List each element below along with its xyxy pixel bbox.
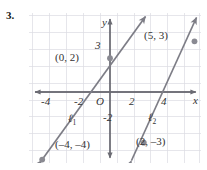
point-marker-0-2	[107, 55, 113, 61]
x-tick-label-neg4: -4	[41, 96, 50, 107]
x-tick-label-2: 2	[129, 96, 135, 107]
line-label-ell-2: ℓ2	[148, 112, 156, 126]
line-label-ell-1-subscript: 1	[73, 118, 77, 127]
line-label-ell-1: ℓ1	[68, 113, 76, 127]
y-axis-label: y	[102, 17, 107, 28]
x-axis-label: x	[193, 95, 198, 106]
y-tick-label-neg2: -2	[103, 112, 112, 123]
problem-number: 3.	[6, 10, 14, 21]
point-label-5-3: (5, 3)	[144, 30, 168, 41]
x-tick-label-4: 4	[161, 96, 167, 107]
point-marker-neg4-neg4	[39, 157, 45, 163]
point-label-neg4-neg4: (–4, –4)	[55, 139, 90, 150]
figure-root: 3.	[0, 0, 207, 170]
point-marker-5-3	[192, 38, 198, 44]
y-tick-label-3: 3	[95, 40, 101, 51]
point-label-0-2: (0, 2)	[55, 52, 79, 63]
point-label-2-neg3: (2, –3)	[136, 136, 165, 147]
x-tick-label-neg2: -2	[74, 96, 83, 107]
origin-label: O	[96, 96, 104, 107]
line-label-ell-2-subscript: 2	[153, 117, 157, 126]
